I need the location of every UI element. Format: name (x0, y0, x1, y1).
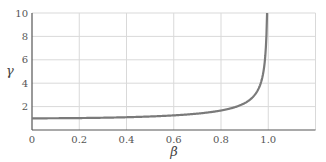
x-tick-label: 0.8 (213, 134, 229, 145)
y-tick-label: 2 (22, 101, 28, 112)
y-axis-label: γ (6, 63, 14, 78)
lorentz-factor-chart: 00.20.40.60.81.0 246810 β γ (0, 0, 326, 162)
x-tick-label: 0.4 (119, 134, 135, 145)
x-tick-label: 0.2 (71, 134, 87, 145)
y-tick-label: 6 (22, 54, 28, 65)
grid-lines (32, 13, 316, 130)
y-tick-label: 8 (22, 31, 28, 42)
x-tick-label: 1.0 (260, 134, 276, 145)
x-tick-label: 0 (29, 134, 35, 145)
y-tick-label: 10 (15, 8, 28, 19)
x-tick-labels: 00.20.40.60.81.0 (29, 134, 276, 145)
y-tick-labels: 246810 (15, 8, 28, 113)
gamma-curve (32, 13, 267, 118)
y-tick-label: 4 (22, 78, 28, 89)
x-axis-label: β (169, 144, 178, 159)
